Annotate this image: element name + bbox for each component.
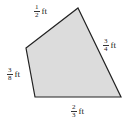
- denominator: 4: [104, 46, 108, 53]
- side-label-left: 3 8 ft: [7, 67, 20, 82]
- side-label-bottom: 2 3 ft: [71, 104, 84, 119]
- fraction: 3 8: [7, 67, 13, 82]
- side-label-top: 1 2 ft: [34, 4, 47, 19]
- figure-canvas: [0, 0, 128, 126]
- denominator: 3: [72, 112, 76, 119]
- fraction: 3 4: [103, 38, 109, 53]
- side-label-right: 3 4 ft: [103, 38, 116, 53]
- unit: ft: [15, 70, 21, 79]
- unit: ft: [111, 41, 117, 50]
- denominator: 8: [8, 75, 12, 82]
- unit: ft: [79, 107, 85, 116]
- unit: ft: [42, 7, 48, 16]
- denominator: 2: [35, 12, 39, 19]
- fraction: 2 3: [71, 104, 77, 119]
- fraction: 1 2: [34, 4, 40, 19]
